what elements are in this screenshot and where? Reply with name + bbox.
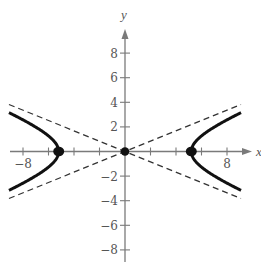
y-axis-label: y: [119, 7, 127, 22]
y-tick-label: −8: [100, 243, 118, 257]
y-tick-label: 2: [110, 120, 118, 134]
x-tick-label: 8: [223, 157, 231, 171]
x-axis-arrow-icon: [242, 148, 252, 155]
y-tick-label: 8: [110, 47, 118, 61]
y-tick-label: 6: [110, 71, 118, 85]
vertex-point: [186, 147, 197, 157]
y-tick-label: −6: [100, 219, 118, 233]
y-tick-label: 4: [110, 96, 118, 110]
y-tick-label: −4: [100, 194, 118, 208]
hyperbola-chart: 8642−2−4−6−8−88 x y: [0, 0, 261, 262]
x-tick-label: −8: [14, 157, 32, 171]
axes: [10, 29, 252, 262]
y-tick-label: −2: [100, 170, 118, 184]
y-axis-arrow-icon: [122, 29, 129, 39]
x-axis-label: x: [255, 144, 261, 159]
vertex-point: [53, 147, 64, 157]
center-point: [121, 147, 130, 156]
